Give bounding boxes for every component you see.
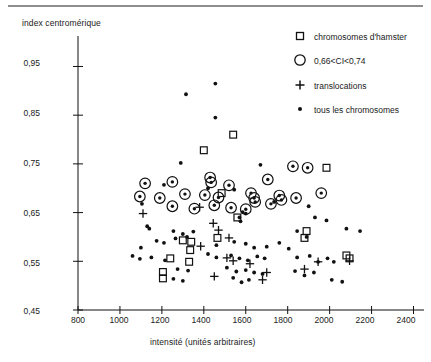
data-point (154, 193, 165, 204)
data-point (167, 255, 174, 262)
data-point (288, 161, 299, 172)
data-point (225, 266, 229, 270)
data-point (140, 202, 144, 206)
data-point (287, 247, 291, 251)
data-point (255, 255, 259, 259)
data-point (303, 274, 307, 278)
data-point (229, 254, 233, 258)
data-point (345, 227, 349, 231)
data-point (246, 258, 250, 262)
data-point (240, 280, 244, 284)
data-point (206, 252, 210, 256)
data-point (147, 227, 151, 231)
data-point (277, 241, 281, 245)
data-point (179, 237, 186, 244)
data-point (176, 267, 180, 271)
data-point (258, 276, 266, 284)
data-point (200, 147, 207, 154)
data-point (186, 258, 193, 265)
data-point (213, 82, 217, 86)
data-point (209, 219, 217, 227)
data-point (265, 245, 269, 249)
data-point (225, 234, 233, 242)
data-point (215, 243, 219, 247)
data-point (140, 178, 151, 189)
series-0 (131, 82, 362, 285)
data-point (162, 183, 166, 187)
data-point (252, 246, 256, 250)
data-point (186, 269, 190, 273)
data-point (312, 271, 316, 275)
data-point (323, 164, 330, 171)
data-point (138, 257, 142, 261)
data-point (307, 204, 311, 208)
data-point (313, 216, 317, 220)
data-point (189, 203, 200, 214)
plot-canvas (0, 0, 431, 362)
data-point (210, 272, 218, 280)
data-point (181, 279, 185, 283)
series-1 (135, 161, 327, 214)
data-point (244, 242, 248, 246)
data-point (332, 260, 336, 264)
data-point (263, 268, 271, 276)
data-point (179, 161, 183, 165)
data-point (184, 92, 188, 96)
data-point (314, 258, 322, 266)
data-point (139, 246, 143, 250)
data-point (316, 188, 327, 199)
data-point (295, 256, 299, 260)
data-point (174, 237, 178, 241)
data-point (131, 254, 135, 258)
data-point (276, 195, 287, 206)
data-point (167, 177, 178, 188)
data-point (215, 256, 219, 260)
data-point (252, 271, 256, 275)
data-point (308, 254, 312, 258)
data-point (226, 202, 237, 213)
data-point (262, 174, 273, 185)
data-point (238, 256, 242, 260)
data-point (263, 256, 267, 260)
data-point (232, 240, 236, 244)
scatter-plot-figure: index centromérique intensité (unités ar… (0, 0, 431, 362)
data-point (340, 280, 344, 284)
data-point (234, 270, 238, 274)
data-point (266, 199, 277, 210)
data-point (293, 269, 297, 273)
data-point (180, 189, 191, 200)
data-point (224, 180, 235, 191)
data-point (213, 116, 217, 120)
data-point (231, 276, 235, 280)
data-point (187, 247, 194, 254)
data-point (172, 229, 176, 233)
data-point (295, 229, 299, 233)
data-point (330, 278, 334, 282)
data-point (300, 265, 308, 273)
data-point (196, 242, 204, 250)
data-point (214, 226, 222, 234)
data-point (162, 241, 166, 245)
data-point (247, 278, 251, 282)
data-point (325, 218, 329, 222)
data-point (291, 193, 302, 204)
data-point (172, 277, 176, 281)
data-point (155, 239, 159, 243)
data-point (181, 232, 185, 236)
data-point (326, 256, 330, 260)
data-point (302, 162, 313, 173)
data-point (191, 230, 195, 234)
data-point (135, 191, 146, 202)
data-point (139, 209, 147, 217)
data-point (259, 163, 263, 167)
data-point (214, 235, 221, 242)
data-point (200, 190, 211, 201)
data-point (167, 201, 178, 212)
data-point (149, 256, 153, 260)
data-point (303, 228, 310, 235)
data-point (244, 268, 248, 272)
data-point (188, 238, 195, 245)
data-point (230, 131, 237, 138)
data-point (358, 229, 362, 233)
